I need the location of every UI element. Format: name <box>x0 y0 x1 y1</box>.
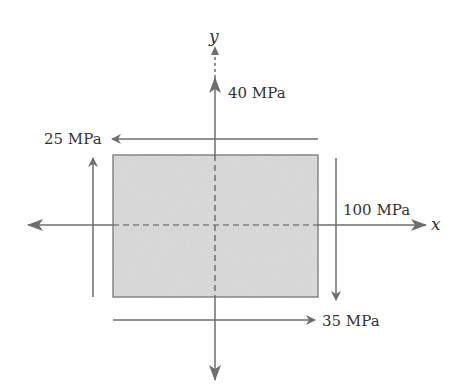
stress-element-diagram: x y 40 MPa 25 MPa 100 MPa 35 MPa <box>0 0 465 392</box>
x-axis-label: x <box>431 214 441 234</box>
normal-stress-x-label: 100 MPa <box>343 201 410 219</box>
shear-stress-top-label: 25 MPa <box>44 130 102 148</box>
y-axis-label: y <box>208 26 219 46</box>
normal-stress-y-label: 40 MPa <box>228 84 286 102</box>
shear-stress-bottom-label: 35 MPa <box>322 312 380 330</box>
